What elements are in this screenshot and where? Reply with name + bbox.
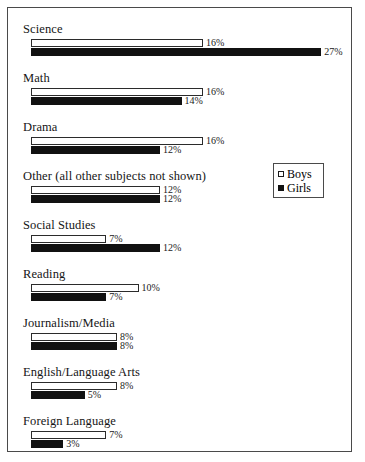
chart-group: Math16%14% bbox=[23, 71, 345, 105]
group-label: Drama bbox=[23, 120, 345, 134]
bar-group: 7%12% bbox=[23, 235, 345, 252]
group-label: Social Studies bbox=[23, 218, 345, 232]
chart-legend: Boys Girls bbox=[273, 163, 324, 198]
bar-boys bbox=[31, 235, 106, 243]
bar-row-boys: 10% bbox=[31, 284, 345, 292]
bar-group: 8%8% bbox=[23, 333, 345, 350]
bar-girls bbox=[31, 391, 85, 399]
bar-row-girls: 14% bbox=[31, 97, 345, 105]
bar-group: 7%3% bbox=[23, 431, 345, 448]
bar-value-girls: 12% bbox=[163, 143, 181, 156]
legend-entry-girls: Girls bbox=[278, 181, 323, 195]
bar-row-boys: 8% bbox=[31, 382, 345, 390]
bar-row-boys: 16% bbox=[31, 137, 345, 145]
group-label: Reading bbox=[23, 267, 345, 281]
chart-group: Science16%27% bbox=[23, 22, 345, 56]
bar-boys bbox=[31, 333, 117, 341]
group-label: English/Language Arts bbox=[23, 365, 345, 379]
plot-area: Science16%27%Math16%14%Drama16%12%Other … bbox=[8, 8, 351, 451]
legend-swatch-boys-icon bbox=[278, 171, 284, 177]
bar-value-girls: 8% bbox=[120, 339, 133, 352]
bar-group: 10%7% bbox=[23, 284, 345, 301]
group-label: Math bbox=[23, 71, 345, 85]
bar-boys bbox=[31, 88, 203, 96]
legend-swatch-girls-icon bbox=[278, 185, 284, 191]
bar-value-girls: 27% bbox=[324, 45, 342, 58]
bar-value-girls: 12% bbox=[163, 192, 181, 205]
bar-girls bbox=[31, 342, 117, 350]
chart-group: Social Studies7%12% bbox=[23, 218, 345, 252]
bar-girls bbox=[31, 195, 160, 203]
bar-row-girls: 7% bbox=[31, 293, 345, 301]
legend-label-girls: Girls bbox=[287, 181, 311, 195]
bar-row-girls: 8% bbox=[31, 342, 345, 350]
bar-girls bbox=[31, 146, 160, 154]
chart-group: Journalism/Media8%8% bbox=[23, 316, 345, 350]
bar-boys bbox=[31, 39, 203, 47]
bar-girls bbox=[31, 244, 160, 252]
group-label: Science bbox=[23, 22, 345, 36]
bar-girls bbox=[31, 440, 63, 448]
bar-row-boys: 16% bbox=[31, 39, 345, 47]
bar-row-boys: 7% bbox=[31, 235, 345, 243]
bar-value-girls: 5% bbox=[88, 388, 101, 401]
group-label: Foreign Language bbox=[23, 414, 345, 428]
chart-group: English/Language Arts8%5% bbox=[23, 365, 345, 399]
bar-group: 16%27% bbox=[23, 39, 345, 56]
chart-group: Drama16%12% bbox=[23, 120, 345, 154]
bar-group: 16%12% bbox=[23, 137, 345, 154]
bar-group: 8%5% bbox=[23, 382, 345, 399]
legend-label-boys: Boys bbox=[287, 167, 312, 181]
bar-value-girls: 12% bbox=[163, 241, 181, 254]
chart-group: Foreign Language7%3% bbox=[23, 414, 345, 448]
bar-boys bbox=[31, 186, 160, 194]
bar-girls bbox=[31, 48, 321, 56]
chart-frame: Science16%27%Math16%14%Drama16%12%Other … bbox=[7, 7, 352, 452]
bar-boys bbox=[31, 382, 117, 390]
bar-value-girls: 14% bbox=[185, 94, 203, 107]
bar-row-girls: 5% bbox=[31, 391, 345, 399]
bar-girls bbox=[31, 97, 182, 105]
bar-row-girls: 3% bbox=[31, 440, 345, 448]
bar-row-girls: 12% bbox=[31, 244, 345, 252]
chart-group: Reading10%7% bbox=[23, 267, 345, 301]
bar-row-girls: 27% bbox=[31, 48, 345, 56]
group-label: Journalism/Media bbox=[23, 316, 345, 330]
bar-value-girls: 3% bbox=[66, 437, 79, 450]
bar-row-girls: 12% bbox=[31, 146, 345, 154]
bar-group: 16%14% bbox=[23, 88, 345, 105]
bar-girls bbox=[31, 293, 106, 301]
bar-value-girls: 7% bbox=[109, 290, 122, 303]
bar-row-boys: 8% bbox=[31, 333, 345, 341]
legend-entry-boys: Boys bbox=[278, 167, 323, 181]
